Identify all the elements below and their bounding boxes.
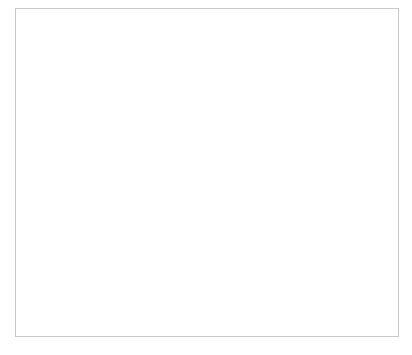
figure-frame xyxy=(15,8,399,337)
caption-fragment-text xyxy=(96,0,216,3)
chart-figure: 5456586062646668707274767880 Percentage … xyxy=(0,0,412,355)
